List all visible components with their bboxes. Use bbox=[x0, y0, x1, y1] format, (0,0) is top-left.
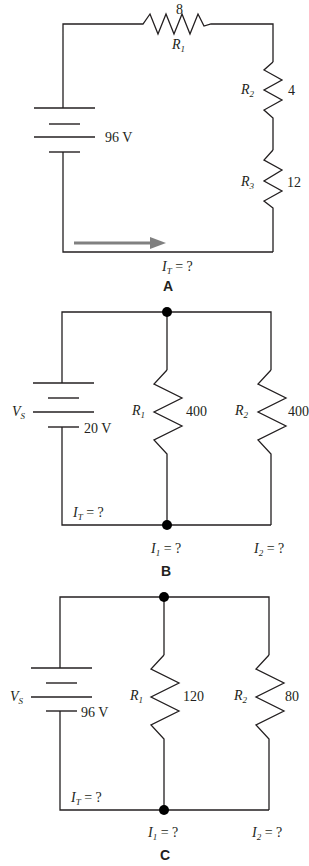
junction-bottom bbox=[162, 520, 172, 530]
wire-bottom bbox=[63, 152, 273, 252]
r1-value: 400 bbox=[186, 404, 207, 419]
junction-bottom bbox=[159, 805, 169, 815]
r1-label: R1 bbox=[171, 37, 185, 54]
circuit-diagrams: 8 R1 R2 4 R3 12 96 V IT = ? A VS 20 V R1… bbox=[0, 0, 309, 866]
total-current-label: IT = ? bbox=[70, 790, 102, 807]
resistor-r1 bbox=[154, 370, 182, 525]
r2-value: 400 bbox=[288, 404, 309, 419]
r3-label: R3 bbox=[240, 174, 255, 191]
figure-label-a: A bbox=[163, 278, 173, 294]
circuit-a-series: 8 R1 R2 4 R3 12 96 V IT = ? A bbox=[34, 2, 301, 294]
figure-label-b: B bbox=[161, 563, 171, 579]
r2-value: 4 bbox=[288, 83, 295, 98]
source-voltage: 20 V bbox=[84, 421, 111, 436]
r1-value: 8 bbox=[176, 2, 183, 17]
r2-label: R2 bbox=[233, 688, 248, 705]
r2-value: 80 bbox=[285, 689, 299, 704]
resistor-r2 bbox=[258, 370, 286, 525]
i2-label: I2 = ? bbox=[251, 825, 282, 842]
total-current-label: IT = ? bbox=[161, 259, 193, 276]
i1-label: I1 = ? bbox=[150, 541, 181, 558]
resistor-r1 bbox=[151, 655, 179, 810]
i2-label: I2 = ? bbox=[253, 541, 284, 558]
r2-label: R2 bbox=[240, 82, 255, 99]
r2-label: R2 bbox=[234, 403, 249, 420]
resistor-r3 bbox=[264, 150, 282, 252]
r1-value: 120 bbox=[183, 689, 204, 704]
resistor-r2 bbox=[256, 655, 284, 810]
r1-label: R1 bbox=[131, 403, 145, 420]
r3-value: 12 bbox=[287, 175, 301, 190]
junction-top bbox=[162, 307, 172, 317]
resistor-r2 bbox=[264, 62, 282, 150]
junction-top bbox=[159, 592, 169, 602]
circuit-b-parallel: VS 20 V R1 400 R2 400 IT = ? I1 = ? I2 =… bbox=[12, 307, 309, 579]
i1-label: I1 = ? bbox=[147, 825, 178, 842]
source-voltage: 96 V bbox=[105, 130, 132, 145]
vs-label: VS bbox=[10, 689, 24, 706]
r1-label: R1 bbox=[129, 688, 143, 705]
vs-label: VS bbox=[12, 404, 26, 421]
source-voltage: 96 V bbox=[81, 705, 108, 720]
current-arrow bbox=[74, 237, 166, 249]
battery-symbol bbox=[34, 108, 95, 152]
circuit-c-parallel: VS 96 V R1 120 R2 80 IT = ? I1 = ? I2 = … bbox=[10, 592, 299, 863]
figure-label-c: C bbox=[160, 847, 170, 863]
total-current-label: IT = ? bbox=[72, 505, 104, 522]
